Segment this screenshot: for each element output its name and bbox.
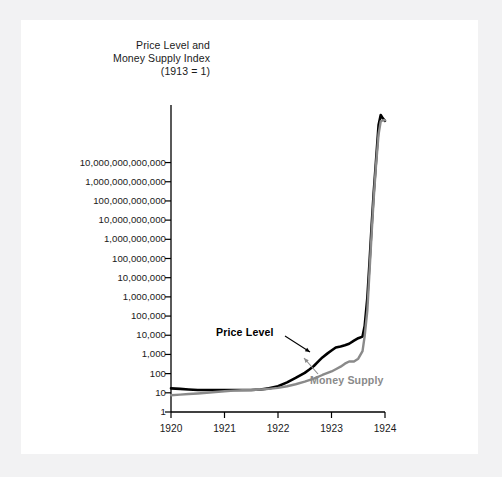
x-axis-tick-labels: 19201921192219231924 <box>0 0 502 477</box>
x-axis-tick-label: 1921 <box>201 423 249 434</box>
figure-container: Price Level and Money Supply Index (1913… <box>0 0 502 477</box>
x-axis-tick-label: 1922 <box>254 423 302 434</box>
x-axis-tick-label: 1923 <box>308 423 356 434</box>
series-label-price-level: Price Level <box>216 326 274 338</box>
x-axis-tick-label: 1920 <box>147 423 195 434</box>
x-axis-tick-label: 1924 <box>361 423 409 434</box>
series-label-money-supply: Money Supply <box>310 374 384 386</box>
